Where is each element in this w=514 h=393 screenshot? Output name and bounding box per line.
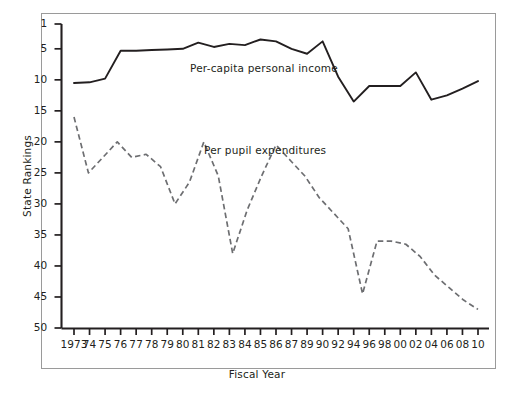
y-tick-label: 5 (24, 42, 48, 54)
x-axis-title: Fiscal Year (0, 368, 514, 380)
chart-canvas (0, 0, 514, 393)
y-axis-title: State Rankings (21, 121, 33, 231)
y-tick-label: 50 (24, 321, 48, 333)
x-tick-label: 10 (468, 338, 488, 350)
y-tick-label: 10 (24, 73, 48, 85)
series-label-per-pupil-expenditures: Per pupil expenditures (204, 144, 326, 156)
series-label-per-capita-personal-income: Per-capita personal income (190, 62, 338, 74)
y-tick-label: 45 (24, 290, 48, 302)
y-tick-label: 15 (24, 104, 48, 116)
y-tick-label: 40 (24, 259, 48, 271)
y-tick-label: 1 (24, 17, 48, 29)
